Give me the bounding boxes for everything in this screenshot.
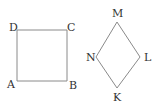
label-c: C <box>67 21 75 34</box>
geometry-diagram: D C A B M N L K <box>0 0 157 107</box>
label-a: A <box>6 78 16 91</box>
label-n: N <box>86 51 96 64</box>
square-abcd <box>17 30 67 81</box>
label-d: D <box>9 21 18 34</box>
label-b: B <box>69 79 77 92</box>
label-m: M <box>112 7 123 20</box>
label-k: K <box>113 91 122 104</box>
rhombus-mlkn <box>96 22 140 88</box>
label-l: L <box>144 51 152 64</box>
